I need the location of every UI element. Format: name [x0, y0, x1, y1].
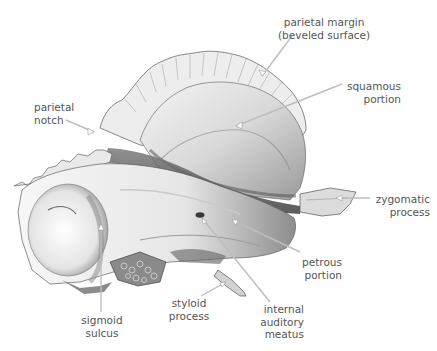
- internal-auditory-meatus-opening: [196, 212, 205, 218]
- label-line: notch: [34, 114, 74, 127]
- leader-parietal-margin: [262, 36, 292, 76]
- label-styloid-process: styloid process: [164, 297, 214, 322]
- styloid-process-region: [214, 270, 246, 296]
- label-line: styloid: [164, 297, 214, 310]
- label-line: petrous: [300, 256, 342, 269]
- label-line: process: [164, 310, 214, 323]
- label-line: internal: [254, 303, 304, 316]
- label-parietal-margin: parietal margin (beveled surface): [278, 16, 370, 41]
- zygomatic-process-region: [300, 188, 356, 216]
- label-line: portion: [300, 269, 342, 282]
- label-line: zygomatic: [372, 193, 430, 206]
- mastoid-region: [28, 184, 108, 276]
- label-internal-auditory-meatus: internal auditory meatus: [254, 303, 304, 341]
- label-petrous-portion: petrous portion: [300, 256, 342, 281]
- label-line: auditory: [254, 316, 304, 329]
- label-line: sulcus: [76, 327, 128, 340]
- temporal-bone-illustration: [0, 0, 437, 351]
- label-line: parietal margin: [278, 16, 370, 29]
- label-parietal-notch: parietal notch: [34, 101, 74, 126]
- label-sigmoid-sulcus: sigmoid sulcus: [76, 314, 128, 339]
- label-squamous-portion: squamous portion: [345, 80, 401, 105]
- label-line: meatus: [254, 328, 304, 341]
- label-line: parietal: [34, 101, 74, 114]
- label-line: portion: [345, 93, 401, 106]
- label-line: process: [372, 206, 430, 219]
- label-line: squamous: [345, 80, 401, 93]
- label-line: sigmoid: [76, 314, 128, 327]
- label-zygomatic-process: zygomatic process: [372, 193, 430, 218]
- label-line: (beveled surface): [278, 29, 370, 42]
